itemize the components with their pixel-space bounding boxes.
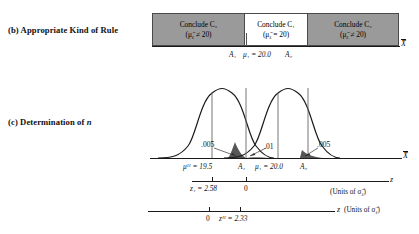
part-c-xbar-axis-label: X̄ <box>403 151 408 160</box>
z-axis-upper-label-zero: 0 <box>244 185 248 192</box>
normal-curves-plot <box>150 84 402 162</box>
decision-box-middle-condition: (μᵪ̄ = 20) <box>263 30 289 40</box>
z-axis-upper-units: (Units of σᵪ̄) <box>330 189 366 196</box>
decision-rule-strip: Conclude C₂ (μᵪ̄ ≠ 20) Conclude C₁ (μᵪ̄ … <box>152 13 399 46</box>
z-axis-lower-name: z <box>337 206 340 214</box>
area-label-left-005: .005 <box>201 141 214 149</box>
caption-part-b-prefix: (b) <box>8 25 19 35</box>
z-axis-upper-name: z <box>390 176 393 184</box>
part-c-mark-a1: A₁ <box>238 163 245 170</box>
z-axis-upper-tick-z1 <box>212 177 213 181</box>
caption-part-b-text: Appropriate Kind of Rule <box>21 25 119 35</box>
decision-box-conclude-c2-right[interactable]: Conclude C₂ (μᵪ̄ ≠ 20) <box>307 13 399 46</box>
area-label-middle-01: .01 <box>264 143 274 151</box>
normal-curve-mu-ii <box>158 89 274 159</box>
z-axis-lower-units: (Units of σᵪ̄) <box>344 207 380 214</box>
caption-part-b: (b) Appropriate Kind of Rule <box>8 25 118 35</box>
part-b-xbar-axis <box>152 46 400 47</box>
z-axis-upper-label-z1: z₁ = 2.58 <box>190 185 217 192</box>
decision-box-left-conclusion: Conclude C₂ <box>180 20 218 30</box>
z-axis-lower-label-zero: 0 <box>206 215 210 222</box>
decision-box-middle-conclusion: Conclude C₁ <box>257 20 295 30</box>
normal-curves-svg <box>150 84 402 162</box>
z-axis-lower-label-z2: zᴵᴵ = 2.33 <box>219 215 247 222</box>
shaded-tail-right-005 <box>300 150 322 158</box>
decision-box-right-conclusion: Conclude C₂ <box>334 20 372 30</box>
part-b-mark-mu1: μ₁ = 20.0 <box>243 51 271 58</box>
part-c-mark-mu-i: μ₁ = 20.0 <box>255 163 283 170</box>
part-c-mark-mu-ii: μᴵᴵ = 19.5 <box>183 163 212 170</box>
caption-part-c-prefix: (c) <box>8 117 18 127</box>
decision-box-conclude-c2-left[interactable]: Conclude C₂ (μᵪ̄ ≠ 20) <box>152 13 245 46</box>
part-b-mark-a1: A₁ <box>229 51 236 58</box>
caption-part-c-italic: n <box>87 117 92 127</box>
shaded-tail-left-005 <box>228 142 246 158</box>
z-axis-lower-tick-zero <box>209 207 210 211</box>
decision-box-right-condition: (μᵪ̄ ≠ 20) <box>340 30 366 40</box>
caption-part-c-text: Determination of <box>20 117 84 127</box>
part-c-mark-a2: A₂ <box>300 163 307 170</box>
decision-box-left-condition: (μᵪ̄ ≠ 20) <box>185 30 211 40</box>
caption-part-c: (c) Determination of n <box>8 117 92 127</box>
decision-box-conclude-c1-middle[interactable]: Conclude C₁ (μᵪ̄ = 20) <box>245 13 307 46</box>
part-b-mark-a2: A₂ <box>285 51 292 58</box>
part-b-xbar-axis-label: X̄ <box>401 39 406 48</box>
part-b-mu-pointer <box>246 33 247 46</box>
z-axis-lower-tick-z2 <box>240 207 241 211</box>
z-axis-lower <box>148 211 335 212</box>
z-axis-upper-tick-zero <box>246 177 247 181</box>
z-axis-upper <box>192 181 389 182</box>
area-label-right-005: .005 <box>317 141 330 149</box>
figure-canvas: (b) Appropriate Kind of Rule Conclude C₂… <box>0 0 419 234</box>
part-c-xbar-axis <box>150 158 402 159</box>
